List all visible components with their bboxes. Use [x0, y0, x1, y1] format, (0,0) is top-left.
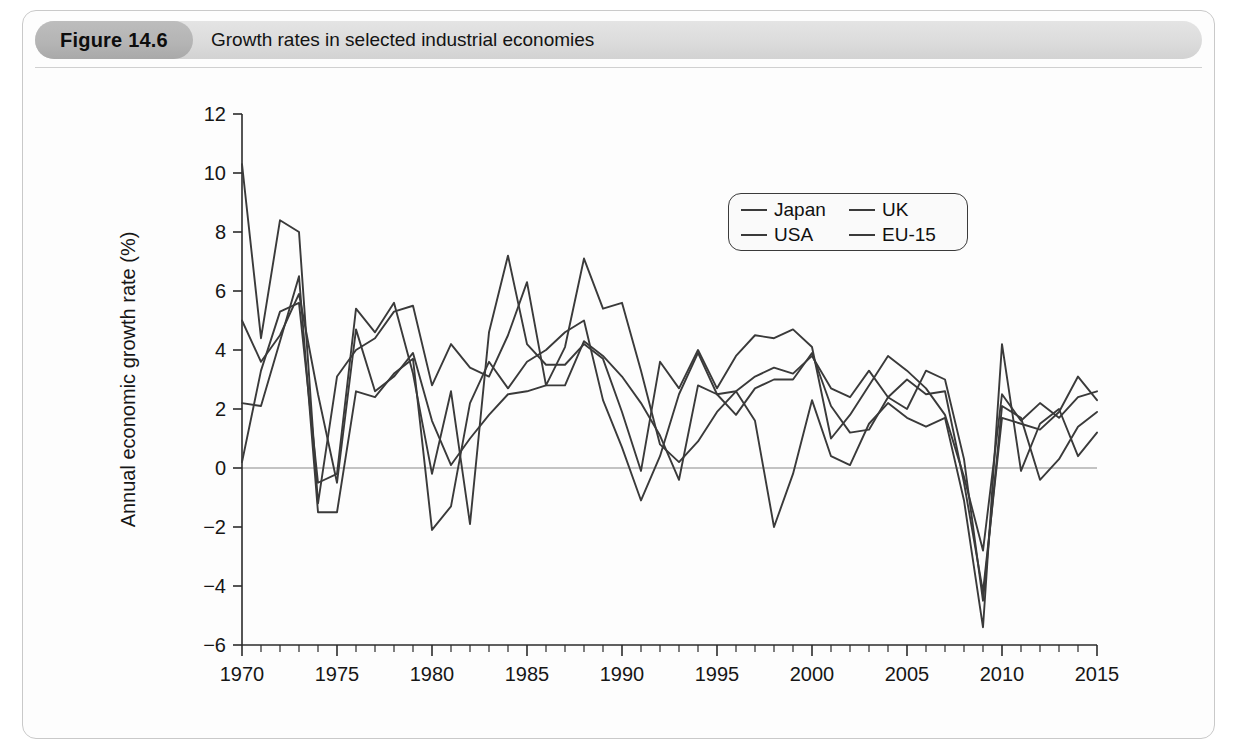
y-axis-title-group: Annual economic growth rate (%) — [117, 232, 139, 528]
y-tick-label: −6 — [203, 634, 226, 656]
x-tick-label: 1985 — [505, 663, 550, 685]
y-tick-label: 10 — [204, 162, 226, 184]
series-line-eu-15 — [242, 294, 1097, 601]
legend-entry-japan: Japan — [741, 200, 849, 219]
x-tick-label: 1990 — [600, 663, 645, 685]
legend-label: UK — [882, 200, 908, 219]
legend-label: Japan — [774, 200, 826, 219]
y-tick-label: −4 — [203, 575, 226, 597]
x-tick-label: 2000 — [790, 663, 835, 685]
x-axis-ticks-group: 1970197519801985199019952000200520102015 — [220, 645, 1120, 685]
legend-label: USA — [774, 225, 813, 244]
series-line-uk — [242, 276, 1097, 592]
figure-header: Figure 14.6 Growth rates in selected ind… — [35, 21, 1202, 65]
x-tick-label: 1980 — [410, 663, 455, 685]
line-swatch-icon — [741, 209, 767, 211]
line-swatch-icon — [849, 209, 875, 211]
header-divider — [35, 67, 1202, 68]
y-axis-ticks-group: −6−4−2024681012 — [203, 103, 242, 656]
x-tick-label: 2010 — [980, 663, 1025, 685]
x-tick-label: 1975 — [315, 663, 360, 685]
y-tick-label: −2 — [203, 516, 226, 538]
data-series-group — [242, 164, 1097, 627]
y-tick-label: 0 — [215, 457, 226, 479]
axis-lines-group — [242, 114, 1097, 645]
y-tick-label: 12 — [204, 103, 226, 125]
y-tick-label: 2 — [215, 398, 226, 420]
legend-entry-usa: USA — [741, 225, 849, 244]
x-tick-label: 1970 — [220, 663, 265, 685]
line-chart-svg: Annual economic growth rate (%) −6−4−202… — [23, 69, 1216, 737]
figure-container: Figure 14.6 Growth rates in selected ind… — [22, 10, 1215, 739]
y-tick-label: 6 — [215, 280, 226, 302]
figure-number-badge: Figure 14.6 — [35, 21, 193, 59]
chart-legend: Japan UK USA EU-15 — [728, 193, 968, 251]
line-swatch-icon — [849, 234, 875, 236]
legend-label: EU-15 — [882, 225, 936, 244]
chart-plot-area: Annual economic growth rate (%) −6−4−202… — [23, 69, 1216, 737]
y-axis-title: Annual economic growth rate (%) — [117, 232, 139, 528]
x-tick-label: 2005 — [885, 663, 930, 685]
x-tick-label: 1995 — [695, 663, 740, 685]
y-tick-label: 4 — [215, 339, 226, 361]
line-swatch-icon — [741, 234, 767, 236]
y-tick-label: 8 — [215, 221, 226, 243]
x-tick-label: 2015 — [1075, 663, 1120, 685]
figure-caption: Growth rates in selected industrial econ… — [211, 21, 594, 59]
legend-entry-eu15: EU-15 — [849, 225, 957, 244]
legend-entry-uk: UK — [849, 200, 957, 219]
legend-grid: Japan UK USA EU-15 — [729, 194, 967, 250]
